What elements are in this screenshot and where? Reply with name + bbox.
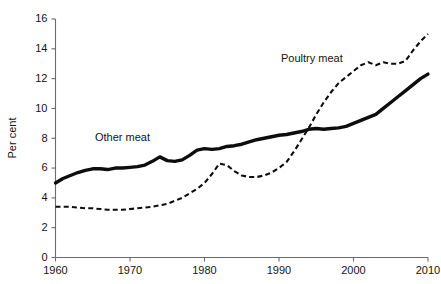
series-label-poultry-meat: Poultry meat — [281, 52, 343, 64]
x-tick-label: 2000 — [341, 264, 365, 276]
y-tick-label: 2 — [41, 221, 47, 233]
y-tick-label: 10 — [35, 102, 47, 114]
series-group — [56, 34, 429, 210]
y-tick-group: 0246810121416 — [35, 12, 55, 263]
x-tick-label: 1990 — [267, 264, 291, 276]
y-tick-label: 6 — [41, 161, 47, 173]
y-tick-label: 14 — [35, 42, 47, 54]
y-tick-label: 12 — [35, 72, 47, 84]
x-tick-group: 196019701980199020002010 — [43, 258, 440, 276]
series-line-poultry-meat — [56, 34, 429, 210]
line-chart: 0246810121416 196019701980199020002010 P… — [0, 0, 441, 284]
chart-figure: 0246810121416 196019701980199020002010 P… — [0, 0, 441, 284]
y-axis-title: Per cent — [6, 118, 18, 159]
series-label-other-meat: Other meat — [95, 131, 150, 143]
x-tick-label: 1960 — [43, 264, 67, 276]
y-tick-label: 0 — [41, 251, 47, 263]
x-tick-label: 1980 — [192, 264, 216, 276]
y-tick-label: 4 — [41, 191, 47, 203]
y-tick-label: 16 — [35, 12, 47, 24]
y-tick-label: 8 — [41, 132, 47, 144]
x-tick-label: 2010 — [416, 264, 440, 276]
series-line-other-meat — [56, 74, 429, 183]
x-tick-label: 1970 — [118, 264, 142, 276]
